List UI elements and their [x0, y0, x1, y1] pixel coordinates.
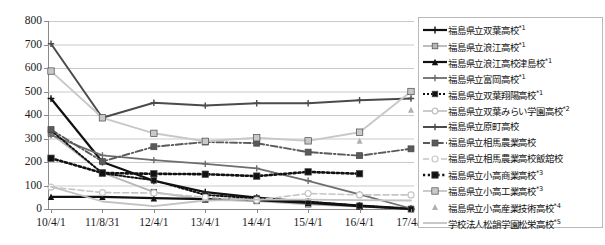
legend-footnote-marker: *4	[554, 202, 561, 210]
data-point-marker	[356, 129, 362, 135]
data-point-marker	[151, 171, 157, 177]
y-tick-mark	[44, 139, 49, 140]
legend-key-swatch	[422, 120, 448, 134]
data-point-marker	[99, 159, 105, 165]
data-point-marker	[202, 102, 208, 108]
data-point-marker	[202, 194, 208, 200]
legend-item-6[interactable]: 福島県立双葉みらい学園高校*2	[422, 102, 600, 118]
data-point-marker	[408, 88, 414, 94]
y-tick-label: 600	[0, 62, 42, 74]
data-point-marker	[356, 97, 362, 103]
x-tick-label: 14/4/1	[242, 216, 271, 229]
x-tick-mark	[360, 209, 361, 213]
y-tick-label: 500	[0, 86, 42, 98]
y-tick-label: 200	[0, 156, 42, 168]
legend-label: 福島県立小高産業技術高校*4	[448, 201, 561, 214]
y-tick-label: 0	[0, 203, 42, 215]
legend-item-12[interactable]: 福島県立小高産業技術高校*4	[422, 199, 600, 215]
data-point-marker	[99, 115, 105, 121]
data-point-marker	[432, 75, 438, 81]
x-tick-mark	[411, 209, 412, 213]
data-point-marker	[432, 123, 438, 129]
data-point-marker	[356, 171, 362, 177]
legend-label: 福島県立相馬農業高校	[448, 138, 536, 148]
data-point-marker	[305, 169, 311, 175]
plot-area	[48, 21, 414, 209]
x-tick-mark	[102, 209, 103, 213]
legend-footnote-marker: *1	[545, 57, 552, 65]
data-point-marker	[202, 171, 208, 177]
legend-item-3[interactable]: 福島県立浪江高校津島校*1	[422, 54, 600, 70]
x-tick-label: 10/4/1	[36, 216, 65, 229]
y-tick-label: 800	[0, 15, 42, 27]
data-point-marker	[408, 192, 414, 198]
y-tick-mark	[44, 45, 49, 46]
y-tick-mark	[44, 92, 49, 93]
legend-footnote-marker: *2	[562, 105, 569, 113]
legend-key-swatch	[422, 23, 448, 37]
data-point-marker	[432, 27, 439, 34]
legend-label: 福島県立双葉みらい学園高校*2	[448, 104, 570, 117]
data-point-marker	[408, 107, 414, 113]
legend-item-5[interactable]: 福島県立双葉翔陽高校*1	[422, 86, 600, 102]
legend-label: 福島県立富岡高校*1	[448, 72, 526, 85]
data-point-marker	[432, 156, 438, 162]
x-tick-label: 11/8/31	[85, 216, 120, 229]
data-point-marker	[305, 100, 311, 106]
y-axis-labels: 8007006005004003002001000	[0, 0, 42, 245]
data-point-marker	[202, 161, 208, 167]
legend-label: 福島県立双葉翔陽高校*1	[448, 88, 543, 101]
y-tick-mark	[44, 115, 49, 116]
data-point-marker	[254, 165, 260, 171]
legend-item-11[interactable]: 福島県立小高工業高校*3	[422, 183, 600, 199]
data-point-marker	[151, 190, 157, 196]
x-tick-mark	[205, 209, 206, 213]
legend-footnote-marker: *1	[518, 24, 525, 32]
legend-item-1[interactable]: 福島県立双葉高校*1	[422, 22, 600, 38]
legend-footnote-marker: *3	[536, 169, 543, 177]
data-point-marker	[151, 178, 157, 184]
legend-footnote-marker: *1	[518, 73, 525, 81]
legend-footnote-marker: *1	[518, 41, 525, 49]
data-point-marker	[305, 149, 311, 155]
chart-root: 8007006005004003002001000 10/4/111/8/311…	[0, 0, 605, 245]
y-tick-mark	[44, 162, 49, 163]
y-tick-mark	[44, 68, 49, 69]
legend-key-swatch	[422, 184, 448, 198]
data-point-marker	[99, 170, 105, 176]
data-point-marker	[305, 190, 311, 196]
legend-item-2[interactable]: 福島県立浪江高校*1	[422, 38, 600, 54]
x-tick-label: 16/4/1	[345, 216, 374, 229]
data-point-marker	[151, 157, 157, 163]
legend-footnote-marker: *5	[554, 218, 561, 226]
data-point-marker	[432, 140, 438, 146]
data-point-marker	[357, 203, 363, 209]
data-point-marker	[254, 173, 260, 179]
data-point-marker	[202, 138, 208, 144]
data-point-marker	[151, 100, 157, 106]
data-point-marker	[357, 153, 363, 159]
data-point-marker	[254, 135, 260, 141]
x-tick-mark	[51, 209, 52, 213]
data-point-marker	[432, 172, 438, 178]
legend-item-13[interactable]: 学校法人松韻学園松栄高校*5	[422, 215, 600, 231]
legend-key-swatch	[422, 104, 448, 118]
data-point-marker	[254, 100, 260, 106]
legend-label: 福島県立浪江高校*1	[448, 40, 526, 53]
data-point-marker	[357, 138, 363, 144]
legend-key-swatch	[422, 200, 448, 214]
legend-item-4[interactable]: 福島県立富岡高校*1	[422, 70, 600, 86]
legend-item-9[interactable]: 福島県立相馬農業高校飯舘校	[422, 151, 600, 167]
legend-key-swatch	[422, 168, 448, 182]
legend-item-7[interactable]: 福島県立原町高校	[422, 119, 600, 135]
legend-label: 福島県立双葉高校*1	[448, 23, 526, 36]
legend-label: 福島県立小高商業高校*3	[448, 168, 543, 181]
legend-item-8[interactable]: 福島県立相馬農業高校	[422, 135, 600, 151]
legend-key-swatch	[422, 87, 448, 101]
x-tick-label: 13/4/1	[191, 216, 220, 229]
y-tick-mark	[44, 209, 49, 210]
data-point-marker	[432, 92, 438, 98]
x-tick-mark	[154, 209, 155, 213]
legend-item-10[interactable]: 福島県立小高商業高校*3	[422, 167, 600, 183]
series-lines	[48, 21, 414, 209]
